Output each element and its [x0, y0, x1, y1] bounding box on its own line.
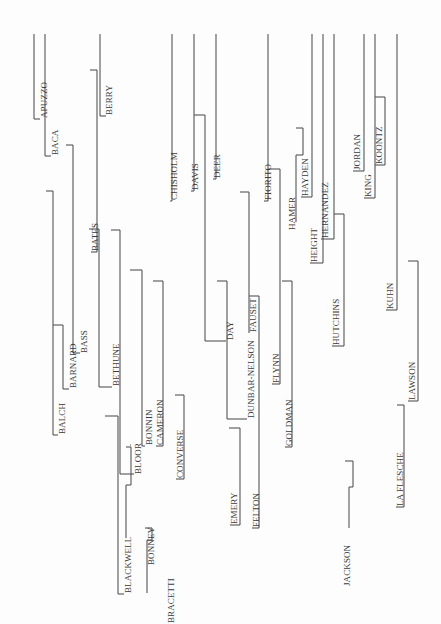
name-label-jackson: JACKSON — [342, 545, 352, 586]
name-label-balch: BALCH — [57, 403, 67, 434]
name-label-king: KING — [363, 174, 373, 197]
name-label-hernandez: HERNANDEZ — [320, 182, 330, 238]
name-label-bracetti: BRACETTI — [166, 578, 176, 623]
name-label-bonney: BONNEY — [146, 527, 156, 565]
name-label-la-flesche: LA FLESCHE — [395, 452, 405, 506]
name-label-fiorito: FIORITO — [263, 164, 273, 200]
name-label-fauset: FAUSET — [248, 298, 258, 332]
name-label-blackwell: BLACKWELL — [123, 537, 133, 593]
name-label-lawson: LAWSON — [407, 362, 417, 400]
name-label-converse: CONVERSE — [175, 430, 185, 478]
name-label-bass: BASS — [79, 330, 89, 353]
name-label-felton: FELTON — [251, 493, 261, 527]
name-label-emery: EMERY — [229, 492, 239, 524]
name-label-bloor: BLOOR — [133, 443, 143, 474]
name-label-dunbar-nelson: DUNBAR-NELSON — [246, 340, 256, 418]
name-label-bonnin: BONNIN — [144, 409, 154, 445]
name-label-koontz: KOONTZ — [374, 126, 384, 164]
name-label-davis: DAVIS — [190, 163, 200, 190]
connector-lines — [0, 0, 441, 624]
name-label-kuhn: KUHN — [385, 283, 395, 309]
name-label-bates: BATES — [90, 223, 100, 251]
name-label-apuzzo: APUZZO — [39, 82, 49, 118]
name-label-goldman: GOLDMAN — [284, 399, 294, 446]
bracket-tree-diagram: APUZZOBACABERRYBALCHBARNARDBASSBATESBETH… — [0, 0, 441, 624]
name-label-deer: DEER — [212, 154, 222, 178]
name-label-hamer: HAMER — [287, 197, 297, 230]
name-label-hutchins: HUTCHINS — [331, 299, 341, 345]
name-label-jordan: JORDAN — [352, 134, 362, 170]
name-label-cameron: CAMERON — [155, 399, 165, 445]
name-label-day: DAY — [225, 321, 235, 340]
name-label-bethune: BETHUNE — [111, 343, 121, 386]
name-label-chisholm: CHISHOLM — [169, 152, 179, 200]
name-label-barnard: BARNARD — [68, 343, 78, 388]
name-label-height: HEIGHT — [309, 228, 319, 262]
name-label-flynn: FLYNN — [271, 353, 281, 383]
name-label-berry: BERRY — [104, 85, 114, 115]
name-label-baca: BACA — [50, 130, 60, 155]
name-label-hayden: HAYDEN — [300, 158, 310, 196]
